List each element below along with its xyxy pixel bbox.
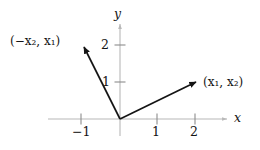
x-axis-label: x — [234, 112, 241, 125]
vector-rotation-diagram: (−x₂, x₁) (x₁, x₂) −1 1 2 2 1 x y — [0, 0, 260, 150]
vector-label-original: (x₁, x₂) — [203, 76, 243, 88]
y-tick-label-1: 1 — [102, 76, 110, 89]
vector-label-rotated: (−x₂, x₁) — [10, 35, 60, 47]
y-axis-label: y — [114, 8, 121, 21]
y-tick-label-2: 2 — [101, 39, 109, 52]
vector-original — [120, 82, 196, 119]
x-tick-label-1: 1 — [152, 126, 160, 139]
x-tick-label-2: 2 — [190, 126, 198, 139]
x-tick-label-neg1: −1 — [72, 126, 90, 139]
